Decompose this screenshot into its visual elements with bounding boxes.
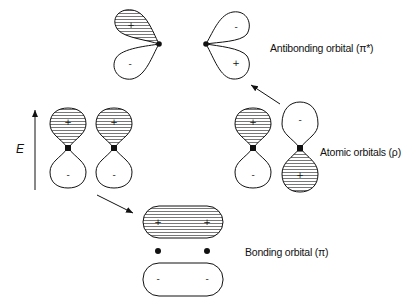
bonding-bottom-lobe <box>143 263 223 296</box>
svg-text:+: + <box>249 117 257 127</box>
antibonding-left-bottom-lobe <box>114 44 159 79</box>
svg-text:+: + <box>110 117 118 127</box>
svg-text:+: + <box>296 170 304 180</box>
svg-text:+: + <box>127 20 135 30</box>
antibonding-right-bottom-lobe <box>206 44 249 79</box>
nucleus-dot <box>203 41 209 47</box>
antibonding-right-top-lobe <box>206 12 249 44</box>
svg-text:-: - <box>112 170 115 180</box>
nucleus-dot <box>155 248 161 254</box>
svg-text:-: - <box>156 274 159 284</box>
svg-text:+: + <box>232 58 240 68</box>
arrow-to-antibonding <box>251 85 280 104</box>
antibonding-left-p-orbital <box>114 10 162 79</box>
svg-text:-: - <box>128 59 131 69</box>
svg-text:+: + <box>64 117 72 127</box>
antibonding-left-top-lobe <box>115 10 159 44</box>
nucleus-dot <box>156 41 162 47</box>
phase-signs: + - - + + - + - + - - + + + - - <box>64 20 304 284</box>
svg-text:-: - <box>234 22 237 32</box>
antibonding-right-p-orbital <box>203 12 249 79</box>
arrow-to-bonding <box>97 195 133 213</box>
svg-text:+: + <box>203 217 211 227</box>
bonding-label: Bonding orbital (π) <box>245 246 328 258</box>
svg-text:-: - <box>251 170 254 180</box>
svg-text:-: - <box>66 170 69 180</box>
svg-text:-: - <box>298 115 301 125</box>
nucleus-dot <box>204 248 210 254</box>
svg-text:-: - <box>205 274 208 284</box>
energy-axis-label: E <box>16 142 24 156</box>
svg-text:+: + <box>154 217 162 227</box>
antibonding-label: Antibonding orbital (π*) <box>270 42 373 54</box>
atomic-orbitals-label: Atomic orbitals (ρ) <box>320 146 401 158</box>
